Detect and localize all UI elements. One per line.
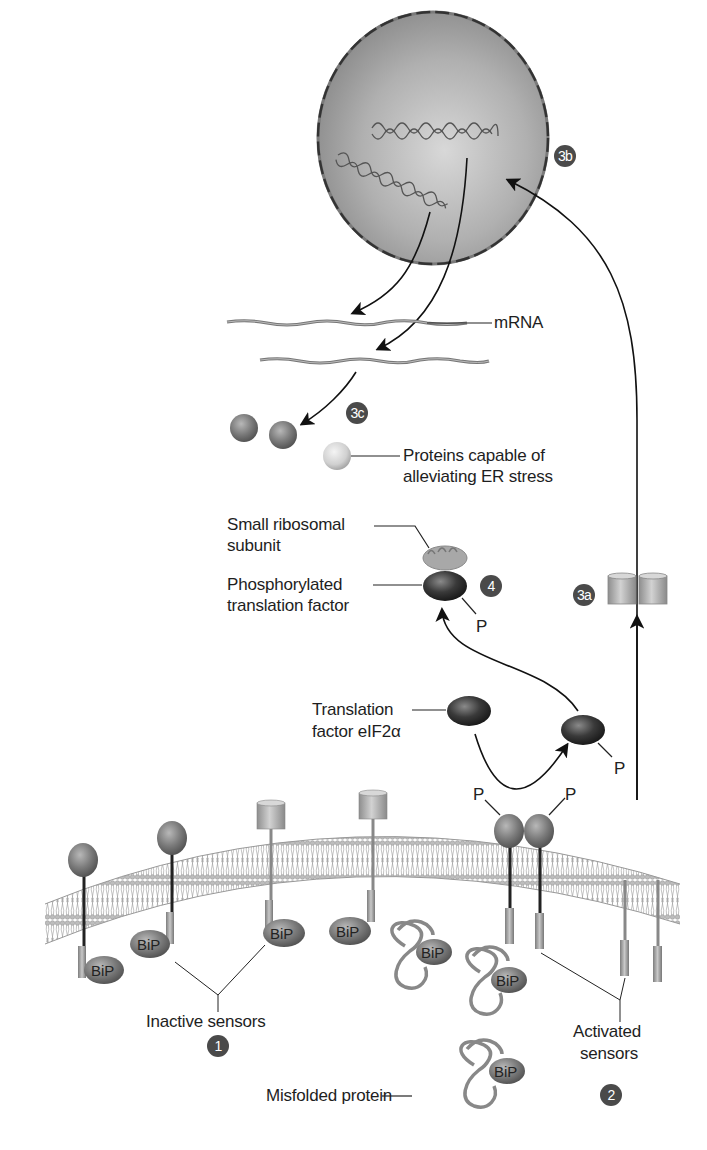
proteins-capable-label-line2: alleviating ER stress [403, 467, 553, 487]
eif2a-factor [447, 696, 491, 726]
svg-text:BiP: BiP [270, 925, 293, 942]
nucleus [318, 12, 548, 264]
inactive-sensors-label: Inactive sensors [146, 1012, 266, 1032]
svg-text:BiP: BiP [91, 962, 114, 979]
phosphorylated-eif2a [423, 571, 467, 601]
small-ribosomal-subunit [423, 546, 467, 570]
mrna-label: mRNA [494, 313, 543, 333]
mrna-strand [227, 321, 489, 363]
step-badge-2: 2 [600, 1084, 622, 1106]
activated-sensors-label-line1: Activated [573, 1022, 641, 1042]
step-badge-4: 4 [480, 575, 502, 597]
step-badge-3a: 3a [573, 584, 595, 606]
step-badge-3b: 3b [554, 145, 576, 167]
protein-sphere [230, 414, 258, 442]
svg-text:BiP: BiP [494, 1063, 517, 1080]
phosphorylation-arrow [475, 734, 567, 789]
svg-text:BiP: BiP [496, 972, 519, 989]
svg-text:P: P [473, 785, 484, 804]
signal-to-nucleus-arrow [508, 180, 637, 800]
translation-factor-label-line1: Translation [312, 700, 393, 720]
phosphorylated-label-line1: Phosphorylated [227, 575, 342, 595]
small-ribosomal-label-line1: Small ribosomal [227, 515, 345, 535]
misfolded-protein-label: Misfolded protein [266, 1086, 392, 1106]
inhibition-arrow [442, 610, 578, 711]
protein-sphere [269, 421, 297, 449]
svg-text:P: P [565, 785, 576, 804]
phosphate-label: P [476, 617, 487, 636]
er-stress-diagram: P P BiP [0, 0, 707, 1150]
step-badge-3c: 3c [346, 402, 368, 424]
svg-text:BiP: BiP [336, 923, 359, 940]
phosphorylated-eif2a-free [561, 715, 605, 745]
diagram-artwork: P P BiP [0, 0, 707, 1150]
step-badge-1: 1 [207, 1035, 229, 1057]
small-ribosomal-label-line2: subunit [227, 536, 280, 556]
svg-text:BiP: BiP [421, 944, 444, 961]
svg-text:BiP: BiP [137, 936, 160, 953]
phosphorylated-label-line2: translation factor [227, 596, 349, 616]
activated-sensors-label-line2: sensors [580, 1044, 638, 1064]
phosphate-label: P [614, 759, 625, 778]
ribosome-leader-line [374, 526, 429, 548]
translation-factor-label-line2: factor eIF2α [312, 722, 401, 742]
protein-sphere-light [323, 442, 351, 470]
proteins-capable-label-line1: Proteins capable of [403, 446, 545, 466]
